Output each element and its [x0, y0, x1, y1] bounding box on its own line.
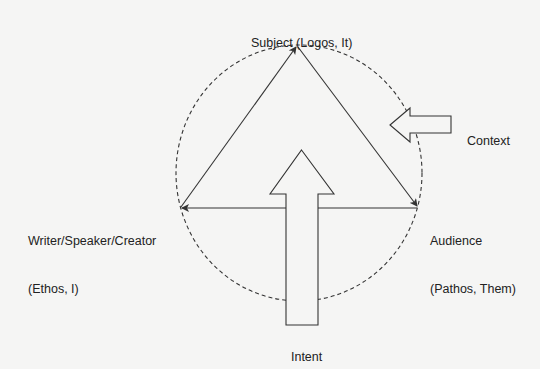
writer-label-line1: Writer/Speaker/Creator: [28, 233, 156, 249]
subject-label-text: Subject (Logos, It): [251, 36, 352, 50]
writer-label: Writer/Speaker/Creator (Ethos, I): [28, 201, 156, 313]
context-block-arrow: [390, 108, 451, 142]
writer-label-line2: (Ethos, I): [28, 281, 156, 297]
context-label: Context: [460, 117, 510, 149]
intent-label: Intent: [284, 333, 322, 365]
rhetorical-triangle-diagram: [0, 0, 540, 369]
audience-label: Audience (Pathos, Them): [430, 201, 516, 313]
audience-label-line1: Audience: [430, 233, 516, 249]
subject-label: Subject (Logos, It): [244, 19, 352, 51]
context-label-text: Context: [467, 134, 510, 148]
intent-label-text: Intent: [291, 350, 322, 364]
audience-label-line2: (Pathos, Them): [430, 281, 516, 297]
